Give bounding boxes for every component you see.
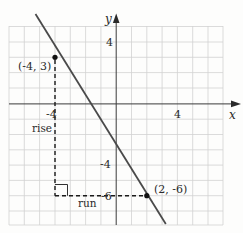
x-axis-label: x <box>229 108 236 122</box>
tick-y-4: 4 <box>106 36 113 49</box>
tick-y-neg4: -4 <box>100 158 111 171</box>
tick-x-neg4: -4 <box>46 108 57 121</box>
coordinate-plane: y x 4 -4 -6 -4 4 (-4, 3) (2, -6) rise ru… <box>0 0 243 233</box>
point-a-marker <box>52 55 57 60</box>
tick-y-neg6: -6 <box>101 190 112 203</box>
point-b-marker <box>144 193 149 198</box>
y-axis-label: y <box>104 12 112 26</box>
rise-label: rise <box>32 122 52 134</box>
run-label: run <box>78 197 97 209</box>
right-angle-marker <box>55 185 68 196</box>
y-axis-arrow-icon <box>113 14 120 24</box>
x-axis-arrow-icon <box>231 101 241 108</box>
point-b-label: (2, -6) <box>154 183 187 196</box>
tick-x-4: 4 <box>174 108 181 121</box>
point-a-label: (-4, 3) <box>18 60 51 73</box>
